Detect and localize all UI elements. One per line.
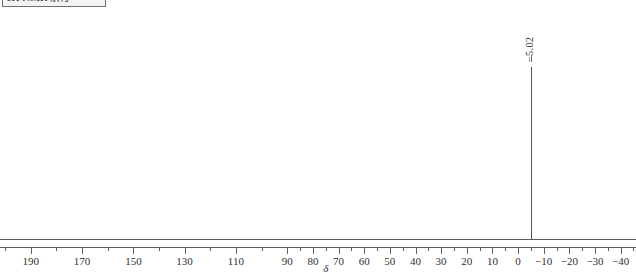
x-axis-minor-tick xyxy=(210,248,211,251)
x-axis-major-tick xyxy=(339,248,340,254)
x-axis-minor-tick xyxy=(531,248,532,251)
x-axis-minor-tick xyxy=(56,248,57,251)
x-axis-major-tick xyxy=(416,248,417,254)
x-axis-tick-label: 80 xyxy=(307,255,318,267)
spectrum-peak xyxy=(531,67,532,239)
x-axis-minor-tick xyxy=(403,248,404,251)
x-axis-major-tick xyxy=(313,248,314,254)
x-axis-minor-tick xyxy=(428,248,429,251)
x-axis-minor-tick xyxy=(326,248,327,251)
x-axis-tick-label: 10 xyxy=(487,255,498,267)
spectrum-plot-area: −5.02 xyxy=(0,0,636,240)
x-axis-major-tick xyxy=(518,248,519,254)
x-axis-minor-tick xyxy=(557,248,558,251)
x-axis-tick-label: 30 xyxy=(436,255,447,267)
x-axis-tick-label: 130 xyxy=(176,255,193,267)
x-axis-minor-tick xyxy=(480,248,481,251)
x-axis-major-tick xyxy=(621,248,622,254)
x-axis-tick-label: 20 xyxy=(461,255,472,267)
x-axis-tick-label: 40 xyxy=(410,255,421,267)
x-axis-tick-label: −20 xyxy=(561,255,578,267)
x-axis-major-tick xyxy=(82,248,83,254)
x-axis-minor-tick xyxy=(454,248,455,251)
x-axis-line xyxy=(0,247,636,248)
x-axis-minor-tick xyxy=(377,248,378,251)
x-axis-minor-tick xyxy=(262,248,263,251)
x-axis-major-tick xyxy=(569,248,570,254)
x-axis-tick-label: −40 xyxy=(612,255,629,267)
x-axis-major-tick xyxy=(364,248,365,254)
x-axis-tick-label: 150 xyxy=(125,255,142,267)
peak-label: −5.02 xyxy=(524,37,535,62)
x-axis-tick-label: 0 xyxy=(515,255,521,267)
x-axis-major-tick xyxy=(236,248,237,254)
x-axis-tick-label: 90 xyxy=(282,255,293,267)
x-axis-title: δ xyxy=(323,262,328,274)
x-axis-minor-tick xyxy=(5,248,6,251)
x-axis-tick-label: 60 xyxy=(359,255,370,267)
x-axis-tick-label: 50 xyxy=(384,255,395,267)
x-axis-tick-label: 190 xyxy=(23,255,40,267)
x-axis-major-tick xyxy=(390,248,391,254)
x-axis-tick-label: −10 xyxy=(535,255,552,267)
x-axis-minor-tick xyxy=(351,248,352,251)
x-axis-tick-label: 110 xyxy=(228,255,244,267)
nmr-spectrum-chart: −5.02 1901701501301109080706050403020100… xyxy=(0,0,636,278)
x-axis-major-tick xyxy=(595,248,596,254)
x-axis-major-tick xyxy=(133,248,134,254)
x-axis-minor-tick xyxy=(505,248,506,251)
x-axis-minor-tick xyxy=(582,248,583,251)
x-axis-major-tick xyxy=(185,248,186,254)
x-axis-tick-label: −30 xyxy=(586,255,603,267)
x-axis-minor-tick xyxy=(608,248,609,251)
x-axis-minor-tick xyxy=(108,248,109,251)
x-axis-minor-tick xyxy=(159,248,160,251)
x-axis-major-tick xyxy=(31,248,32,254)
x-axis-major-tick xyxy=(287,248,288,254)
x-axis-major-tick xyxy=(441,248,442,254)
x-axis-major-tick xyxy=(492,248,493,254)
x-axis-minor-tick xyxy=(633,248,634,251)
spectrum-baseline xyxy=(0,239,636,240)
x-axis-major-tick xyxy=(467,248,468,254)
x-axis-major-tick xyxy=(544,248,545,254)
x-axis-tick-label: 170 xyxy=(74,255,91,267)
x-axis-tick-label: 70 xyxy=(333,255,344,267)
x-axis-minor-tick xyxy=(300,248,301,251)
